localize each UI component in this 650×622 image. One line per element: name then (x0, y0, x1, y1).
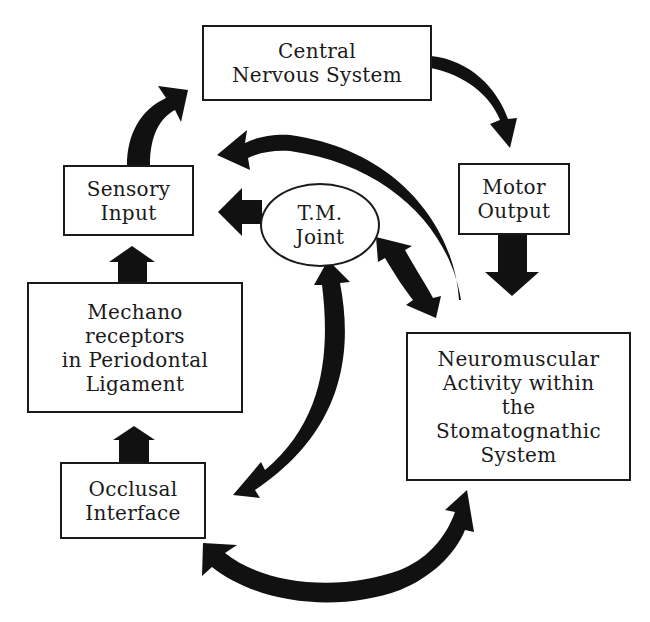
arrow-motor-to-neuromuscular (485, 235, 539, 296)
cns-line-1: Central (278, 39, 356, 63)
arrow-tmjoint-to-sensory (218, 188, 262, 236)
neuro-line-1: Neuromuscular (438, 347, 600, 371)
node-neuromuscular-activity: Neuromuscular Activity within the Stomat… (406, 332, 631, 481)
arrow-occlusal-to-mechano (113, 426, 155, 462)
mechano-line-4: Ligament (86, 372, 185, 396)
arrow-sensory-to-cns (127, 86, 188, 165)
neuro-line-5: System (481, 443, 557, 467)
motor-line-1: Motor (482, 175, 546, 199)
node-central-nervous-system: Central Nervous System (202, 25, 432, 101)
arrow-tmjoint-neuromuscular (376, 237, 441, 318)
mechano-line-2: receptors (85, 324, 185, 348)
arrow-mechano-to-sensory (109, 246, 155, 282)
node-motor-output: Motor Output (458, 163, 570, 235)
mechano-line-3: in Periodontal (62, 348, 208, 372)
node-mechanoreceptors: Mechano receptors in Periodontal Ligamen… (27, 282, 243, 413)
arrow-cns-to-motor (431, 56, 517, 148)
tmjoint-line-2: Joint (296, 225, 345, 249)
node-occlusal-interface: Occlusal Interface (60, 462, 206, 539)
neuro-line-3: the (502, 395, 536, 419)
mechano-line-1: Mechano (87, 300, 182, 324)
tmjoint-line-1: T.M. (298, 201, 343, 225)
arrow-occlusal-neuromuscular (202, 490, 474, 602)
sensory-line-1: Sensory (87, 177, 171, 201)
occlusal-line-1: Occlusal (88, 477, 177, 501)
cns-line-2: Nervous System (232, 63, 402, 87)
node-sensory-input: Sensory Input (63, 165, 194, 236)
arrow-tmjoint-occlusal (233, 260, 350, 498)
motor-line-2: Output (478, 199, 551, 223)
node-tm-joint: T.M. Joint (260, 183, 380, 267)
occlusal-line-2: Interface (85, 501, 180, 525)
neuro-line-2: Activity within (443, 371, 595, 395)
neuro-line-4: Stomatognathic (436, 419, 601, 443)
sensory-line-2: Input (100, 201, 156, 225)
